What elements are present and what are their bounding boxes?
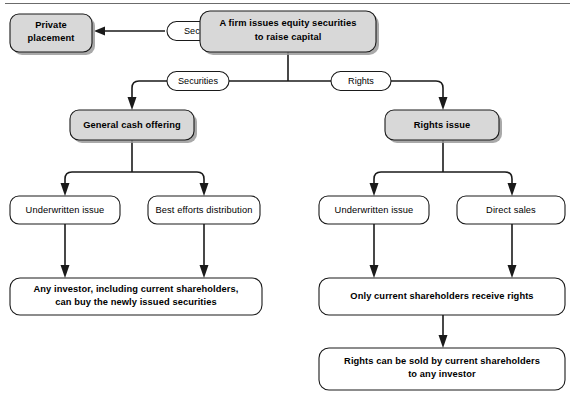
node-direct-sales[interactable]: Direct sales xyxy=(457,196,565,224)
node-private-placement[interactable]: Private placement xyxy=(10,14,95,55)
node-firm-issues-equity[interactable]: A firm issues equity securities to raise… xyxy=(200,11,379,55)
arrowhead-to-direct-sales xyxy=(508,183,517,196)
diagram-page: Private placement Securities A firm issu… xyxy=(0,0,574,404)
connector-rights-bus-left xyxy=(374,172,443,183)
rights-oval-label: Rights xyxy=(348,76,374,86)
best-efforts-distribution-label: Best efforts distribution xyxy=(156,205,253,215)
edge-label-securities-branch[interactable]: Securities xyxy=(167,72,229,91)
rights-sold-line1: Rights can be sold by current shareholde… xyxy=(344,356,540,366)
node-general-cash-offering[interactable]: General cash offering xyxy=(70,110,197,143)
arrowhead-to-rights-issue xyxy=(439,97,448,110)
connector-gco-bus-right xyxy=(132,172,204,183)
arrowhead-to-only-current-right xyxy=(508,265,517,278)
firm-issues-line1: A firm issues equity securities xyxy=(219,18,356,28)
arrowhead-to-best-efforts-distribution xyxy=(200,183,209,196)
arrowhead-to-any-investor-left xyxy=(61,265,70,278)
securities-oval-2-label: Securities xyxy=(178,76,218,86)
arrowhead-to-private-placement xyxy=(94,27,105,36)
only-current-shareholders-label: Only current shareholders receive rights xyxy=(350,291,533,301)
arrowhead-to-underwritten-issue-right xyxy=(370,183,379,196)
arrowhead-to-general-cash-offering xyxy=(128,97,137,110)
node-underwritten-issue-right[interactable]: Underwritten issue xyxy=(319,196,429,224)
connector-rights-to-rights-issue xyxy=(391,81,443,97)
any-investor-line2: can buy the newly issued securities xyxy=(55,297,217,307)
general-cash-offering-label: General cash offering xyxy=(83,120,181,130)
node-best-efforts-distribution[interactable]: Best efforts distribution xyxy=(148,196,260,224)
flowchart-canvas: Private placement Securities A firm issu… xyxy=(0,0,574,404)
connector-rights-bus-right xyxy=(443,172,512,183)
node-any-investor[interactable]: Any investor, including current sharehol… xyxy=(10,278,262,315)
rights-sold-line2: to any investor xyxy=(408,369,476,379)
node-underwritten-issue-left[interactable]: Underwritten issue xyxy=(10,196,120,224)
node-only-current-shareholders[interactable]: Only current shareholders receive rights xyxy=(319,278,565,315)
rights-issue-label: Rights issue xyxy=(414,120,470,130)
edge-label-rights-branch[interactable]: Rights xyxy=(331,72,391,91)
connector-gco-bus-left xyxy=(65,172,132,183)
node-rights-issue[interactable]: Rights issue xyxy=(385,110,502,143)
underwritten-issue-left-label: Underwritten issue xyxy=(26,205,105,215)
arrowhead-to-only-current-left xyxy=(370,265,379,278)
private-placement-line1: Private xyxy=(35,20,67,30)
connector-securities-to-gco xyxy=(132,81,167,97)
firm-issues-line2: to raise capital xyxy=(255,32,322,42)
arrowhead-to-rights-sold xyxy=(439,335,448,348)
arrowhead-to-underwritten-issue-left xyxy=(61,183,70,196)
private-placement-line2: placement xyxy=(28,33,75,43)
any-investor-line1: Any investor, including current sharehol… xyxy=(34,284,239,294)
arrowhead-to-any-investor-right xyxy=(200,265,209,278)
underwritten-issue-right-label: Underwritten issue xyxy=(335,205,414,215)
node-rights-sold[interactable]: Rights can be sold by current shareholde… xyxy=(319,348,565,390)
direct-sales-label: Direct sales xyxy=(486,205,536,215)
